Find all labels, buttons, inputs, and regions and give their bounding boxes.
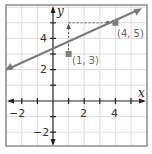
plot-frame [6,5,147,146]
x-axis-arrow-left-icon [7,99,14,104]
x-axis-label: x [138,86,145,100]
x-axis [9,98,144,104]
point-1-3 [66,51,72,57]
rise-arrowhead-icon [66,24,71,30]
point-4-5 [112,20,118,26]
x-tick-label-4: 4 [111,107,118,120]
x-tick-label-neg2: −2 [9,107,25,120]
grid [6,5,147,146]
y-axis-arrow-down-icon [51,139,56,146]
line-arrow-right-icon [134,8,143,15]
point-label-1-3: (1, 3) [72,55,99,66]
y-axis-label: y [56,4,64,18]
x-tick-label-2: 2 [80,107,87,120]
y-axis [50,8,56,144]
y-tick-label-neg2: −2 [33,126,49,139]
coordinate-plane: y x 4 2 −2 −2 2 4 (1, 3) (4, 5) [0,0,152,154]
y-tick-label-2: 2 [40,63,47,76]
y-tick-label-4: 4 [40,32,47,45]
point-label-4-5: (4, 5) [117,28,144,39]
rise-run-annotation [69,23,110,50]
